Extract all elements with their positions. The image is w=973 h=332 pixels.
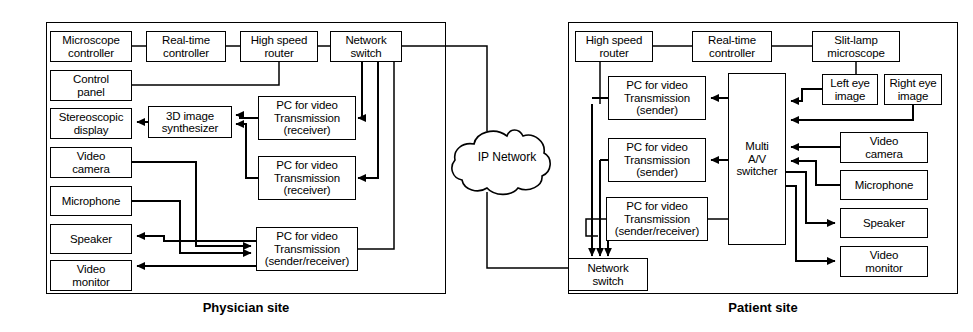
ip-network-label: IP Network xyxy=(457,150,557,164)
box-physician-pc-sender-receiver[interactable]: PC for video Transmission (sender/receiv… xyxy=(256,227,358,271)
box-line: Speaker xyxy=(70,233,112,245)
box-line: Transmission xyxy=(274,112,340,124)
box-physician-speaker[interactable]: Speaker xyxy=(50,224,132,254)
box-line: microscope xyxy=(827,47,884,59)
box-line: Right eye xyxy=(889,77,936,89)
box-line: High speed xyxy=(251,34,308,46)
box-line: Video xyxy=(870,249,898,261)
box-physician-pc-receiver-2[interactable]: PC for video Transmission (receiver) xyxy=(258,156,356,200)
box-line: camera xyxy=(865,148,902,160)
box-physician-pc-receiver-1[interactable]: PC for video Transmission (receiver) xyxy=(258,96,356,140)
box-line: (receiver) xyxy=(283,184,330,196)
box-line: PC for video xyxy=(276,159,337,171)
box-line: (sender/receiver) xyxy=(615,225,699,237)
box-line: PC for video xyxy=(626,141,687,153)
box-line: Microphone xyxy=(62,195,121,207)
box-line: image xyxy=(835,90,866,102)
box-line: Transmission xyxy=(624,92,690,104)
box-line: monitor xyxy=(865,262,902,274)
box-line: Network xyxy=(587,262,628,274)
box-line: Slit-lamp xyxy=(834,34,877,46)
box-line: 3D image xyxy=(166,110,214,122)
box-line: monitor xyxy=(72,276,109,288)
box-line: camera xyxy=(72,163,109,175)
box-line: Microscope xyxy=(62,34,119,46)
box-line: controller xyxy=(709,47,755,59)
box-line: Transmission xyxy=(624,154,690,166)
physician-site-caption: Physician site xyxy=(46,300,446,315)
box-patient-pc-sender-2[interactable]: PC for video Transmission (sender) xyxy=(608,138,706,182)
box-line: synthesizer xyxy=(162,122,219,134)
box-line: Microphone xyxy=(855,179,914,191)
box-line: Real-time xyxy=(162,34,210,46)
box-line: Speaker xyxy=(863,217,905,229)
box-line: Control xyxy=(73,73,109,85)
box-line: switch xyxy=(350,47,381,59)
box-line: A/V xyxy=(748,153,766,165)
box-line: (receiver) xyxy=(283,124,330,136)
box-line: (sender) xyxy=(636,104,678,116)
box-patient-video-monitor[interactable]: Video monitor xyxy=(840,246,928,277)
box-patient-realtime-controller[interactable]: Real-time controller xyxy=(692,31,772,62)
box-patient-pc-sender-receiver[interactable]: PC for video Transmission (sender/receiv… xyxy=(606,197,708,241)
box-physician-realtime-controller[interactable]: Real-time controller xyxy=(146,31,226,62)
box-line: Left eye xyxy=(830,77,870,89)
box-3d-image-synthesizer[interactable]: 3D image synthesizer xyxy=(148,106,232,138)
box-line: Real-time xyxy=(708,34,756,46)
box-multi-av-switcher[interactable]: Multi A/V switcher xyxy=(728,73,786,245)
box-line: High speed xyxy=(586,34,643,46)
box-patient-video-camera[interactable]: Video camera xyxy=(840,132,928,163)
box-physician-video-camera[interactable]: Video camera xyxy=(50,147,132,178)
box-physician-network-switch[interactable]: Network switch xyxy=(330,31,402,62)
box-patient-microphone[interactable]: Microphone xyxy=(840,170,928,200)
box-line: panel xyxy=(77,86,104,98)
box-line: PC for video xyxy=(626,79,687,91)
box-physician-microphone[interactable]: Microphone xyxy=(50,186,132,216)
box-line: switcher xyxy=(737,165,778,177)
box-patient-pc-sender-1[interactable]: PC for video Transmission (sender) xyxy=(608,76,706,120)
box-line: PC for video xyxy=(276,99,337,111)
box-right-eye-image[interactable]: Right eye image xyxy=(884,74,942,105)
box-line: Network xyxy=(345,34,386,46)
box-patient-high-speed-router[interactable]: High speed router xyxy=(575,31,653,62)
box-line: controller xyxy=(163,47,209,59)
box-line: switch xyxy=(592,275,623,287)
box-line: router xyxy=(264,47,293,59)
patient-site-caption: Patient site xyxy=(568,300,958,315)
box-line: PC for video xyxy=(626,200,687,212)
box-physician-high-speed-router[interactable]: High speed router xyxy=(240,31,318,62)
box-line: Stereoscopic xyxy=(59,111,124,123)
box-line: Video xyxy=(77,263,105,275)
box-control-panel[interactable]: Control panel xyxy=(50,70,132,101)
box-line: Transmission xyxy=(274,243,340,255)
box-microscope-controller[interactable]: Microscope controller xyxy=(50,31,132,62)
box-stereoscopic-display[interactable]: Stereoscopic display xyxy=(50,108,132,139)
box-line: router xyxy=(599,47,628,59)
box-line: Video xyxy=(870,135,898,147)
box-physician-video-monitor[interactable]: Video monitor xyxy=(50,260,132,291)
box-line: controller xyxy=(68,47,114,59)
network-diagram: Physician site Patient site IP Network M… xyxy=(0,0,973,332)
box-line: image xyxy=(898,90,929,102)
box-slit-lamp-microscope[interactable]: Slit-lamp microscope xyxy=(812,31,900,62)
box-patient-network-switch[interactable]: Network switch xyxy=(568,258,648,291)
box-line: (sender) xyxy=(636,166,678,178)
box-line: (sender/receiver) xyxy=(265,255,349,267)
box-line: Transmission xyxy=(274,172,340,184)
box-line: display xyxy=(74,124,109,136)
box-line: Video xyxy=(77,150,105,162)
box-patient-speaker[interactable]: Speaker xyxy=(840,208,928,238)
link-cloud-to-patient-switch xyxy=(487,192,568,268)
box-line: PC for video xyxy=(276,230,337,242)
box-line: Transmission xyxy=(624,213,690,225)
box-left-eye-image[interactable]: Left eye image xyxy=(822,74,878,105)
box-line: Multi xyxy=(745,140,769,152)
